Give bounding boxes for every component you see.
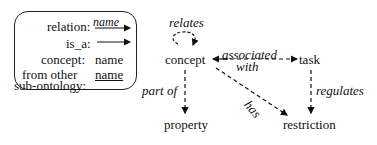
diagram-edges [0,0,377,145]
